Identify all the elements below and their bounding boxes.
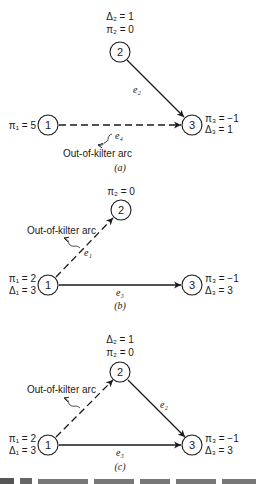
arc-e2-label: e₂ <box>160 399 168 410</box>
node-1-delta-label: Δ₁ = 3 <box>9 285 36 296</box>
node-1: 1 <box>38 435 58 455</box>
node-3: 3 <box>182 435 202 455</box>
node-3-delta-label: Δ₃ = 1 <box>205 124 233 135</box>
node-3: 3 <box>182 275 202 295</box>
node-2-pi-label: π₂ = 0 <box>107 186 135 197</box>
node-2-pi-label: π₂ = 0 <box>106 347 134 358</box>
panel-c-caption: (c) <box>114 461 126 473</box>
node-3: 3 <box>182 115 202 135</box>
svg-text:2: 2 <box>117 366 123 378</box>
node-3-pi-label: π₃ = −1 <box>205 113 239 124</box>
node-2: 2 <box>110 42 130 62</box>
svg-text:1: 1 <box>45 439 51 451</box>
wavy-pointer-icon <box>98 134 112 145</box>
panel-b-caption: (b) <box>114 300 126 312</box>
svg-text:3: 3 <box>189 119 195 131</box>
svg-text:2: 2 <box>117 46 123 58</box>
out-of-kilter-annotation: Out-of-kilter arc <box>27 225 96 236</box>
out-of-kilter-annotation: Out-of-kilter arc <box>63 148 132 159</box>
truncated-figure-caption <box>0 478 256 484</box>
svg-text:3: 3 <box>189 279 195 291</box>
node-2: 2 <box>110 362 130 382</box>
arc-e4-label: e₄ <box>115 130 123 141</box>
svg-text:1: 1 <box>45 279 51 291</box>
node-3-pi-label: π₃ = −1 <box>205 433 239 444</box>
node-3-delta-label: Δ₃ = 3 <box>205 445 233 456</box>
arc-e1-label: e₁ <box>84 247 92 258</box>
out-of-kilter-annotation: Out-of-kilter arc <box>27 384 96 395</box>
wavy-pointer-icon <box>64 398 80 408</box>
node-1-pi-label: π₁ = 2 <box>9 273 37 284</box>
node-1: 1 <box>38 115 58 135</box>
panel-c: 2 1 3 Δ₂ = 1 π₂ = 0 π₁ = 2 Δ₁ = 3 π₃ = −… <box>9 334 239 473</box>
node-2-pi-label: π₂ = 0 <box>106 24 134 35</box>
figure-canvas: 2 1 3 Δ₂ = 1 π₂ = 0 π₁ = 5 π₃ = −1 Δ₃ = … <box>0 0 256 484</box>
arc-e3-label: e₃ <box>116 447 124 458</box>
node-2-delta-label: Δ₂ = 1 <box>106 334 134 345</box>
node-1-pi-label: π₁ = 2 <box>9 433 37 444</box>
node-2: 2 <box>111 200 131 220</box>
node-3-delta-label: Δ₃ = 3 <box>205 285 233 296</box>
node-1-pi-label: π₁ = 5 <box>9 120 37 131</box>
svg-text:2: 2 <box>118 204 124 216</box>
svg-text:1: 1 <box>45 119 51 131</box>
node-2-delta-label: Δ₂ = 1 <box>106 11 134 22</box>
arc-e2 <box>128 380 185 437</box>
node-3-pi-label: π₃ = −1 <box>205 273 239 284</box>
svg-text:3: 3 <box>189 439 195 451</box>
panel-a-caption: (a) <box>114 162 126 174</box>
node-1: 1 <box>38 275 58 295</box>
wavy-pointer-icon <box>64 238 80 248</box>
panel-b: 2 1 3 π₂ = 0 π₁ = 2 Δ₁ = 3 π₃ = −1 Δ₃ = … <box>9 186 239 312</box>
arc-e2-label: e₂ <box>133 84 141 95</box>
panel-a: 2 1 3 Δ₂ = 1 π₂ = 0 π₁ = 5 π₃ = −1 Δ₃ = … <box>9 11 239 174</box>
arc-e3-label: e₃ <box>116 287 124 298</box>
node-1-delta-label: Δ₁ = 3 <box>9 445 36 456</box>
